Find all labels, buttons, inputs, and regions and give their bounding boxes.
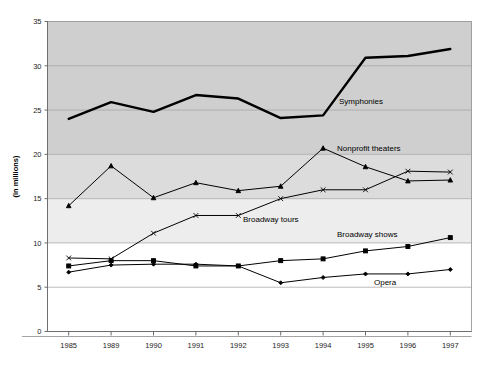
data-point-marker — [109, 259, 113, 263]
y-tick-label: 15 — [33, 194, 41, 203]
x-tick-label: 1990 — [145, 341, 162, 350]
plot-band — [48, 154, 472, 198]
x-tick-label: 1985 — [60, 341, 77, 350]
data-point-marker — [279, 259, 283, 263]
x-tick-label: 1995 — [357, 341, 374, 350]
chart-title — [0, 0, 493, 3]
y-tick-label: 25 — [33, 106, 41, 115]
y-tick-label: 35 — [33, 17, 41, 26]
y-axis-title-text: (in millions) — [11, 155, 20, 198]
y-tick-label: 30 — [33, 62, 41, 71]
x-tick-label: 1991 — [188, 341, 205, 350]
x-tick-label: 1993 — [272, 341, 289, 350]
y-tick-label: 20 — [33, 150, 41, 159]
series-label-broadway-tours: Broadway tours — [243, 215, 299, 224]
plot-background-bands — [48, 22, 472, 332]
data-point-marker — [406, 244, 410, 248]
chart-container: 05101520253035 1985198919901991199219931… — [0, 0, 493, 367]
x-tick-label: 1994 — [315, 341, 332, 350]
series-label-opera: Opera — [374, 278, 397, 287]
y-tick-label: 0 — [37, 327, 41, 336]
data-point-marker — [67, 264, 71, 268]
data-point-marker — [321, 257, 325, 261]
plot-band — [48, 22, 472, 155]
y-axis-ticks: 05101520253035 — [33, 17, 47, 336]
data-point-marker — [364, 249, 368, 253]
line-chart-plot: 05101520253035 1985198919901991199219931… — [0, 0, 493, 367]
series-label-nonprofit-theaters: Nonprofit theaters — [337, 144, 401, 153]
series-label-symphonies: Symphonies — [339, 97, 383, 106]
x-tick-label: 1996 — [400, 341, 417, 350]
x-tick-label: 1989 — [103, 341, 120, 350]
data-point-marker — [448, 236, 452, 240]
y-axis-title: (in millions) — [11, 155, 20, 198]
y-tick-label: 10 — [33, 239, 41, 248]
y-tick-label: 5 — [37, 283, 41, 292]
x-tick-label: 1997 — [442, 341, 459, 350]
x-tick-label: 1992 — [230, 341, 247, 350]
series-label-broadway-shows: Broadway shows — [337, 230, 397, 239]
x-axis-ticks: 1985198919901991199219931994199519961997 — [60, 332, 458, 351]
